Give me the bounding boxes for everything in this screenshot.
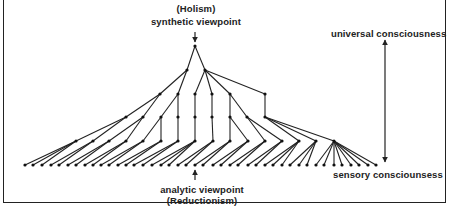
tree-node	[357, 163, 360, 166]
tree-node	[176, 115, 179, 118]
tree-node	[366, 163, 369, 166]
tree-node	[201, 163, 204, 166]
tree-node	[246, 139, 249, 142]
tree-edge	[109, 141, 143, 165]
tree-edge	[195, 46, 205, 70]
tree-node	[176, 92, 179, 95]
tree-node	[332, 139, 335, 142]
tree-node	[254, 163, 257, 166]
tree-node	[91, 163, 94, 166]
tree-edge	[282, 141, 299, 165]
tree-node	[228, 163, 231, 166]
tree-node	[141, 115, 144, 118]
tree-edge	[187, 46, 195, 70]
tree-node	[271, 163, 274, 166]
tree-node	[349, 163, 352, 166]
tree-node	[246, 163, 249, 166]
tree-edge	[334, 141, 351, 165]
tree-node	[193, 139, 196, 142]
tree-node	[116, 163, 119, 166]
tree-edge	[76, 141, 109, 165]
tree-node	[322, 163, 325, 166]
tree-node	[124, 115, 127, 118]
tree-node	[167, 163, 170, 166]
tree-edge	[334, 141, 368, 165]
tree-edge	[33, 141, 76, 165]
tree-edge	[265, 117, 334, 141]
tree-edge	[93, 117, 126, 141]
tree-node	[124, 139, 127, 142]
tree-node	[203, 68, 206, 71]
tree-node	[228, 92, 231, 95]
tree-node	[185, 68, 188, 71]
tree-edge	[299, 141, 316, 165]
tree-node	[141, 139, 144, 142]
tree-node	[228, 139, 231, 142]
tree-node	[210, 115, 213, 118]
tree-node	[332, 163, 335, 166]
tree-node	[374, 163, 377, 166]
tree-node	[263, 139, 266, 142]
tree-node	[31, 163, 34, 166]
holism-label: (Holism)	[177, 3, 216, 14]
tree-node	[124, 163, 127, 166]
tree-node	[211, 163, 214, 166]
tree-edge	[247, 117, 265, 141]
tree-edge	[143, 117, 161, 141]
tree-node	[74, 163, 77, 166]
tree-edge	[25, 141, 76, 165]
universal-consciousness-label: universal consciousness	[331, 28, 446, 39]
tree-node	[91, 139, 94, 142]
tree-node	[107, 163, 110, 166]
tree-edge	[230, 94, 247, 117]
tree-node	[99, 163, 102, 166]
tree-edge	[126, 117, 143, 141]
tree-node	[340, 163, 343, 166]
tree-node	[159, 115, 162, 118]
tree-edge	[101, 141, 143, 165]
tree-edge	[51, 141, 93, 165]
tree-node	[23, 163, 26, 166]
tree-node	[210, 92, 213, 95]
tree-node	[176, 163, 179, 166]
tree-node	[263, 115, 266, 118]
tree-node	[263, 92, 266, 95]
tree-node	[107, 139, 110, 142]
tree-node	[132, 163, 135, 166]
tree-edge	[126, 94, 160, 117]
tree-node	[40, 163, 43, 166]
analytic-viewpoint-label: analytic viewpoint	[160, 184, 244, 195]
tree-node	[74, 139, 77, 142]
tree-node	[280, 163, 283, 166]
tree-node	[66, 163, 69, 166]
tree-node	[314, 163, 317, 166]
tree-node	[141, 163, 144, 166]
tree-node	[263, 163, 266, 166]
synthetic-viewpoint-label: synthetic viewpoint	[151, 16, 241, 27]
tree-node	[228, 115, 231, 118]
tree-edge	[161, 94, 178, 117]
tree-node	[297, 163, 300, 166]
tree-nodes	[23, 44, 377, 166]
tree-edge	[195, 70, 205, 94]
tree-node	[236, 163, 239, 166]
tree-node	[193, 163, 196, 166]
tree-node	[49, 163, 52, 166]
tree-node	[297, 139, 300, 142]
tree-edge	[85, 141, 126, 165]
tree-edge	[109, 117, 143, 141]
tree-node	[288, 163, 291, 166]
tree-node	[314, 139, 317, 142]
tree-node	[219, 163, 222, 166]
tree-edge	[265, 117, 316, 141]
tree-node	[184, 163, 187, 166]
tree-node	[176, 139, 179, 142]
reductionism-label: (Reductionism)	[167, 195, 238, 206]
tree-node	[193, 92, 196, 95]
tree-node	[159, 163, 162, 166]
tree-node	[158, 92, 161, 95]
tree-edge	[212, 117, 213, 141]
tree-node	[150, 163, 153, 166]
tree-node	[159, 139, 162, 142]
tree-node	[193, 44, 196, 47]
